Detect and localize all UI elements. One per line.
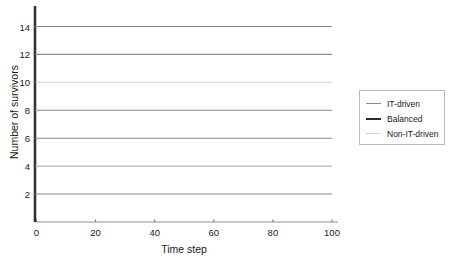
y-tick-label: 14 xyxy=(8,21,30,32)
legend-swatch-line-icon xyxy=(366,118,381,120)
plot-area xyxy=(0,0,350,266)
chart-screenshot: 2468101214 020406080100 Time step Number… xyxy=(0,0,450,266)
legend-item[interactable]: Non-IT-driven xyxy=(360,126,444,141)
legend-label: Balanced xyxy=(387,114,422,124)
x-axis-title: Time step xyxy=(36,243,332,255)
chart-svg xyxy=(0,0,350,266)
legend-label: Non-IT-driven xyxy=(387,129,439,139)
chart-legend: IT-drivenBalancedNon-IT-driven xyxy=(359,90,445,145)
y-tick-label: 2 xyxy=(8,189,30,200)
x-tick-label: 40 xyxy=(149,227,160,238)
x-tick-label: 20 xyxy=(90,227,101,238)
legend-swatch-line-icon xyxy=(366,103,381,104)
legend-swatch-line-icon xyxy=(366,133,381,134)
x-tick-label: 0 xyxy=(34,227,39,238)
y-axis-title: Number of survivors xyxy=(8,37,20,187)
legend-item[interactable]: Balanced xyxy=(360,111,444,126)
legend-label: IT-driven xyxy=(387,99,420,109)
legend-item[interactable]: IT-driven xyxy=(360,96,444,111)
x-tick-label: 60 xyxy=(209,227,220,238)
x-tick-label: 80 xyxy=(268,227,279,238)
x-tick-label: 100 xyxy=(324,227,340,238)
